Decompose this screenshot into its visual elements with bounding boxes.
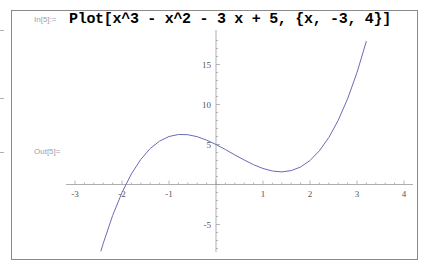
y-tick-label: -5	[204, 220, 212, 230]
x-tick-label: 1	[261, 189, 266, 199]
x-tick-label: -3	[71, 189, 79, 199]
y-tick-label: 10	[202, 100, 212, 110]
x-axis	[66, 181, 413, 185]
plot-curve	[101, 41, 367, 251]
plot-graphic[interactable]: -3 -2 -1 1 2 3 4 -5 5 10 15	[0, 0, 425, 268]
y-axis	[216, 30, 220, 252]
x-tick-label: 2	[308, 189, 313, 199]
x-tick-label: 4	[402, 189, 407, 199]
y-tick-label: 15	[202, 60, 212, 70]
x-tick-label: -1	[165, 189, 173, 199]
y-tick-labels: -5 5 10 15	[202, 60, 212, 230]
x-tick-label: 3	[355, 189, 360, 199]
x-tick-label: -2	[118, 189, 126, 199]
